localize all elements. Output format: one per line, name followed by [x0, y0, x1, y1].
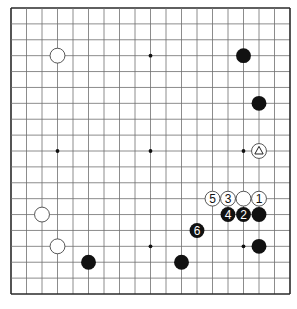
black-stone — [252, 239, 267, 254]
star-point — [149, 54, 153, 58]
white-stone — [236, 191, 251, 206]
move-number: 5 — [209, 192, 216, 206]
move-number: 2 — [240, 208, 247, 222]
star-point — [149, 244, 153, 248]
move-number: 1 — [256, 192, 263, 206]
white-stone — [252, 144, 267, 159]
black-stone — [236, 48, 251, 63]
white-stone — [50, 239, 65, 254]
white-stone-5: 5 — [205, 191, 220, 206]
black-stone — [252, 207, 267, 222]
star-point — [56, 149, 60, 153]
black-stone-6: 6 — [190, 223, 205, 238]
white-stone-1: 1 — [252, 191, 267, 206]
star-point — [242, 149, 246, 153]
white-stone — [50, 48, 65, 63]
black-stone — [252, 96, 267, 111]
white-stone-3: 3 — [221, 191, 236, 206]
black-stone — [81, 255, 96, 270]
black-stone-4: 4 — [221, 207, 236, 222]
star-point — [149, 149, 153, 153]
white-stone — [35, 207, 50, 222]
black-stone — [174, 255, 189, 270]
move-number: 4 — [225, 208, 232, 222]
black-stone-2: 2 — [236, 207, 251, 222]
move-number: 6 — [194, 224, 201, 238]
star-point — [242, 244, 246, 248]
move-number: 3 — [225, 192, 232, 206]
go-board: 531426 — [0, 0, 297, 309]
